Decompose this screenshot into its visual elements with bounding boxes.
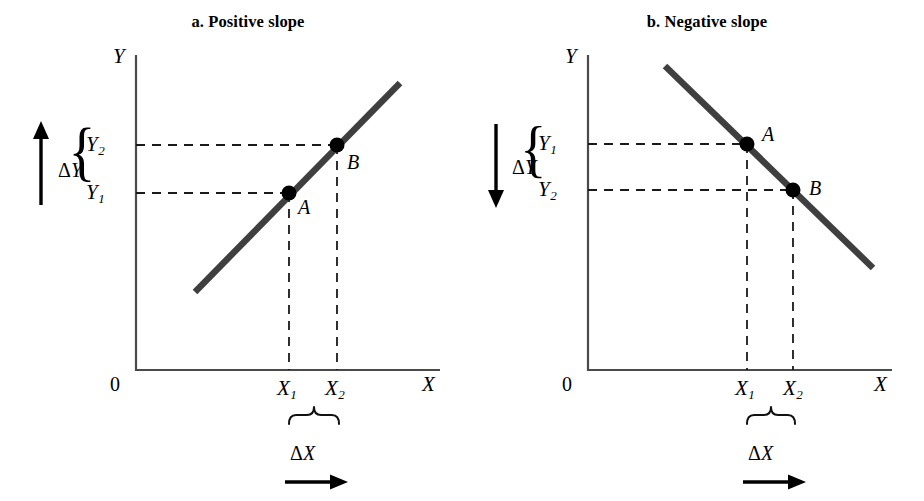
x1-tick-label: X1 [277, 378, 297, 401]
origin-label: 0 [562, 374, 572, 394]
delta-y-label: ΔY [512, 157, 536, 177]
point-a-label: A [298, 197, 310, 217]
axis-lines [136, 55, 440, 370]
x2-tick-label: X2 [325, 378, 345, 401]
panel-a-plot [0, 0, 462, 501]
x-axis-label: X [422, 374, 435, 395]
x-axis-label: X [874, 374, 887, 395]
delta-y-label: ΔY [58, 160, 82, 180]
delta-y-arrow-icon [488, 124, 504, 208]
delta-x-brace [747, 407, 795, 424]
data-point-b [786, 183, 801, 198]
data-point-b [330, 138, 345, 153]
positive-slope-line [195, 83, 400, 292]
origin-label: 0 [110, 374, 120, 394]
panel-b-plot [462, 0, 924, 501]
delta-x-label: ΔX [290, 443, 315, 463]
point-b-label: B [809, 178, 821, 198]
point-b-label: B [347, 152, 359, 172]
negative-slope-line [665, 66, 873, 268]
delta-x-label: ΔX [748, 443, 773, 463]
panel-positive-slope: a. Positive slope [0, 0, 462, 501]
data-point-a [740, 137, 755, 152]
delta-x-arrow-icon [285, 475, 348, 490]
axis-lines [588, 55, 892, 370]
y-axis-label: Y [565, 46, 577, 67]
x1-tick-label: X1 [735, 378, 755, 401]
delta-x-arrow-icon [743, 475, 806, 490]
point-a-label: A [762, 124, 774, 144]
panel-negative-slope: b. Negative slope [462, 0, 924, 501]
delta-x-brace [289, 407, 339, 424]
y-axis-label: Y [113, 46, 125, 67]
data-point-a [282, 186, 297, 201]
x2-tick-label: X2 [783, 378, 803, 401]
delta-y-arrow-icon [33, 121, 49, 205]
slope-figure: a. Positive slope [0, 0, 924, 501]
